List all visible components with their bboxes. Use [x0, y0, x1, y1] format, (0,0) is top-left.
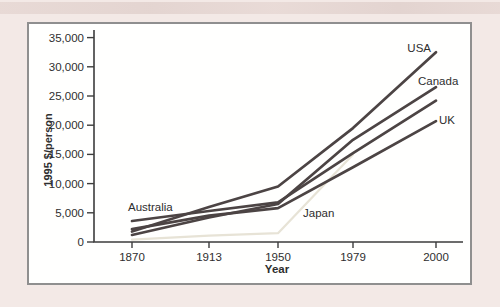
- y-tick-label: 15,000: [49, 148, 84, 160]
- series-label-canada: Canada: [418, 75, 459, 87]
- x-tick-label: 1979: [340, 251, 366, 263]
- series-label-usa: USA: [407, 42, 431, 54]
- x-tick-label: 1950: [265, 251, 291, 263]
- x-tick-label: 1913: [196, 251, 222, 263]
- x-tick-label: 1870: [119, 251, 145, 263]
- x-axis-ticks: 18701913195019792000: [119, 242, 449, 263]
- y-tick-label: 30,000: [49, 61, 84, 73]
- series-line-uk: [132, 121, 436, 229]
- y-tick-label: 0: [78, 236, 84, 248]
- x-axis-title: Year: [265, 263, 290, 275]
- y-tick-label: 5,000: [55, 207, 84, 219]
- y-tick-label: 35,000: [49, 32, 84, 44]
- x-tick-label: 2000: [423, 251, 449, 263]
- series-line-australia: [132, 101, 436, 221]
- series-label-uk: UK: [439, 114, 455, 126]
- y-tick-label: 10,000: [49, 178, 84, 190]
- y-tick-label: 25,000: [49, 90, 84, 102]
- series-label-australia: Australia: [128, 201, 173, 213]
- line-chart: 35,00030,00025,00020,00015,00010,0005,00…: [0, 0, 500, 307]
- series-lines: [132, 52, 436, 240]
- y-axis-title: 1995 $/person: [42, 113, 54, 187]
- y-axis-ticks: 35,00030,00025,00020,00015,00010,0005,00…: [49, 32, 94, 248]
- series-line-canada: [132, 87, 436, 235]
- series-label-japan: Japan: [303, 207, 334, 219]
- y-tick-label: 20,000: [49, 119, 84, 131]
